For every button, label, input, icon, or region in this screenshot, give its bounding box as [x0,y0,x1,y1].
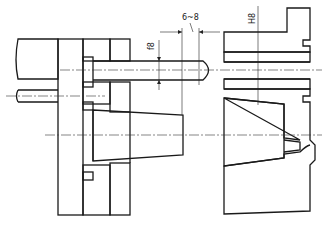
support-plate-mid [83,82,110,104]
retainer-plate [58,39,83,215]
ejector-pin [93,61,209,80]
sprue [284,140,300,152]
clamp-plate [16,39,58,79]
pin-head-lower [83,102,93,110]
tapered-puller [93,110,183,161]
bushing-lower [224,79,310,89]
cavity [224,98,284,166]
dim-6-8: 6~8 [160,13,220,115]
fixed-plate-upper [224,8,310,52]
fixed-half [224,8,315,214]
pin-head-bottom [83,172,93,180]
dim-H8: H8 [248,6,258,105]
fixed-plate-lower [224,89,315,214]
moving-half [16,39,209,215]
dim-label-f8: f8 [147,42,156,50]
core-plate-lower [110,163,130,215]
core-plate-upper [110,39,130,61]
dim-label-H8: H8 [248,13,257,24]
dim-label-6-8: 6~8 [182,13,199,22]
dim-f8: f8 [147,40,161,90]
core-plate-mid [110,82,130,112]
support-plate-upper [83,39,110,61]
mold-section-drawing: f8 6~8 H8 [0,0,324,229]
bushing-upper [224,52,310,62]
